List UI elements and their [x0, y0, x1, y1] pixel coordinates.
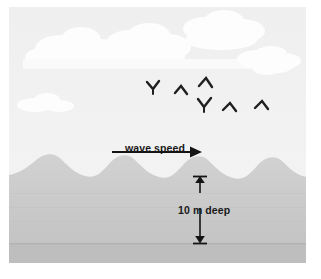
wave-speed-label: wave speed	[125, 142, 185, 154]
cloud-puff	[267, 61, 291, 73]
illustration-frame: wave speed 10 m deep	[9, 7, 306, 263]
scene-svg	[9, 7, 306, 263]
seabed-band	[9, 243, 306, 263]
cloud-puff	[44, 100, 74, 112]
seabed-top-edge	[9, 243, 306, 244]
cloud-puff	[185, 30, 257, 50]
depth-label: 10 m deep	[178, 204, 230, 216]
illustration-canvas: wave speed 10 m deep	[0, 0, 321, 279]
